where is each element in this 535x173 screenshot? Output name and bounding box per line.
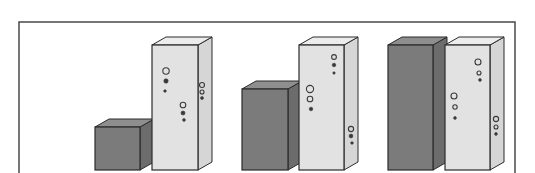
bubble-icon <box>183 119 186 122</box>
bar-front-face <box>242 89 288 170</box>
group-1 <box>95 37 212 170</box>
light-bar <box>445 37 504 170</box>
bar-side-face <box>490 37 504 170</box>
bar-front-face <box>388 45 433 170</box>
bar-front-face <box>299 45 344 170</box>
dark-bar <box>242 81 302 170</box>
bubble-icon <box>164 79 168 83</box>
bar-front-face <box>445 45 490 170</box>
bubble-icon <box>201 97 204 100</box>
bubble-icon <box>333 72 335 74</box>
bubble-icon <box>495 133 498 136</box>
bubble-icon <box>349 134 353 138</box>
bubble-icon <box>181 111 185 115</box>
bubble-icon <box>332 63 336 67</box>
group-3 <box>388 37 504 170</box>
bar-groups <box>95 37 504 170</box>
light-bar <box>299 37 358 170</box>
group-2 <box>242 37 358 170</box>
bar-side-face <box>344 37 358 170</box>
bubble-icon <box>479 79 482 82</box>
bar-front-face <box>95 127 140 170</box>
bubble-icon <box>351 142 354 145</box>
bar-front-face <box>152 45 198 170</box>
bar-illustration <box>0 0 535 173</box>
bar-illustration-canvas <box>0 0 535 173</box>
bubble-icon <box>164 90 167 93</box>
bar-side-face <box>198 37 212 170</box>
bubble-icon <box>454 117 457 120</box>
light-bar <box>152 37 212 170</box>
bubble-icon <box>309 107 313 111</box>
dark-bar <box>388 37 447 170</box>
dark-bar <box>95 119 154 170</box>
